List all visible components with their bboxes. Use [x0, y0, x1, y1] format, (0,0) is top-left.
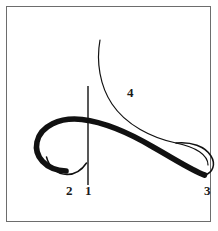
stroke-diagram-figure: 2 1 3 4	[0, 0, 218, 231]
thick-main-stroke-path	[37, 119, 205, 175]
stroke-number-label-4: 4	[127, 86, 134, 99]
stroke-canvas	[0, 0, 218, 231]
stroke-number-label-2: 2	[66, 184, 73, 197]
stroke-number-label-1: 1	[85, 184, 92, 197]
stroke-number-label-3: 3	[204, 184, 211, 197]
